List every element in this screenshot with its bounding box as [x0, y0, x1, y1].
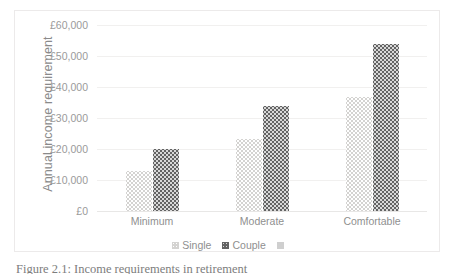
x-axis-label-minimum: Minimum — [97, 215, 207, 227]
bar-group — [97, 25, 207, 211]
legend-label: Couple — [232, 239, 265, 251]
y-axis-tick-label: £40,000 — [50, 81, 88, 93]
bar-groups — [97, 25, 427, 211]
x-axis-label-moderate: Moderate — [207, 215, 317, 227]
legend-item-couple[interactable]: Couple — [222, 239, 265, 251]
bar-group — [207, 25, 317, 211]
bar-moderate-single — [236, 139, 262, 211]
bar-comfortable-couple — [373, 44, 399, 211]
legend-item-unlabeled[interactable] — [277, 242, 284, 249]
bar-minimum-single — [126, 171, 152, 211]
chart-legend: SingleCouple — [15, 239, 441, 251]
plot-area: £60,000£50,000£40,000£30,000£20,000£10,0… — [97, 25, 427, 211]
bar-moderate-couple — [263, 106, 289, 211]
bar-minimum-couple — [153, 149, 179, 211]
x-axis-category-labels: MinimumModerateComfortable — [97, 215, 427, 227]
y-axis-tick-label: £0 — [76, 205, 88, 217]
y-axis-tick-label: £50,000 — [50, 50, 88, 62]
y-axis-tick-label: £20,000 — [50, 143, 88, 155]
x-axis-label-comfortable: Comfortable — [317, 215, 427, 227]
legend-item-single[interactable]: Single — [172, 239, 211, 251]
legend-swatch-icon — [222, 242, 229, 249]
bar-comfortable-single — [346, 97, 372, 211]
legend-label: Single — [182, 239, 211, 251]
legend-swatch-icon — [277, 242, 284, 249]
bar-group — [317, 25, 427, 211]
y-axis-tick-label: £30,000 — [50, 112, 88, 124]
chart-frame: Annual income requirement £60,000£50,000… — [14, 10, 440, 252]
y-axis-tick-label: £60,000 — [50, 19, 88, 31]
legend-swatch-icon — [172, 242, 179, 249]
gridline — [97, 211, 427, 212]
y-axis-tick-label: £10,000 — [50, 174, 88, 186]
figure-caption: Figure 2.1: Income requirements in retir… — [16, 262, 436, 274]
